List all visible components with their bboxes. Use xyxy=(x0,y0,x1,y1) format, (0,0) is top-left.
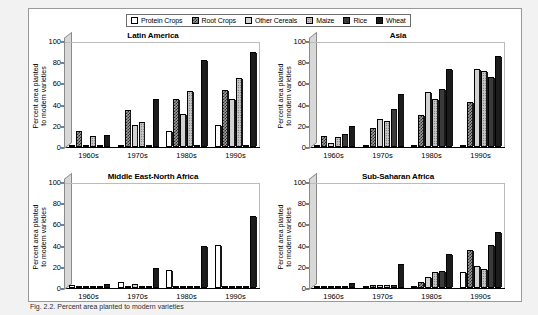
x-tick-label: 1960s xyxy=(309,148,358,160)
swatch-other-cereals-icon xyxy=(245,17,252,24)
bar xyxy=(314,145,320,147)
panel-sub-saharan-africa: Sub-Saharan AfricaPercent area plantedto… xyxy=(278,172,518,302)
plot-area: 0204060801001960s1970s1980s1990s xyxy=(291,42,505,148)
bar xyxy=(377,285,383,288)
bar xyxy=(321,136,327,147)
y-axis-ticks: 020406080100 xyxy=(291,42,309,148)
bar xyxy=(418,115,424,147)
bar xyxy=(411,145,417,147)
y-tick-label: 60 xyxy=(298,80,306,88)
legend-item-label: Other Cereals xyxy=(255,17,297,25)
panel-latin-america: Latin AmericaPercent area plantedto mode… xyxy=(33,31,273,171)
bar xyxy=(146,286,152,288)
bar xyxy=(495,56,501,147)
bar xyxy=(488,77,494,147)
bar xyxy=(488,245,494,288)
y-tick-label: 60 xyxy=(53,80,61,88)
bar-group-1980s xyxy=(163,183,212,288)
y-tick-label: 40 xyxy=(53,243,61,251)
bar xyxy=(104,284,110,288)
panel-middle-east-north-africa: Middle East-North AfricaPercent area pla… xyxy=(33,172,273,302)
bar xyxy=(83,145,89,147)
y-tick-label: 100 xyxy=(48,179,61,187)
legend-item-label: Root Crops xyxy=(202,17,236,25)
bar xyxy=(90,286,96,288)
y-tick-label: 100 xyxy=(293,179,306,187)
x-axis-labels: 1960s1970s1980s1990s xyxy=(309,289,505,301)
x-tick-label: 1970s xyxy=(358,289,407,301)
legend-item-label: Rice xyxy=(353,17,367,25)
bar xyxy=(125,286,131,288)
x-axis-labels: 1960s1970s1980s1990s xyxy=(64,289,260,301)
bar xyxy=(328,286,334,288)
bar xyxy=(425,277,431,288)
bar xyxy=(222,286,228,288)
bar xyxy=(243,286,249,288)
bar xyxy=(222,90,228,147)
bar xyxy=(187,286,193,288)
bar xyxy=(194,286,200,288)
bar xyxy=(132,125,138,147)
x-tick-label: 1960s xyxy=(64,289,113,301)
bar xyxy=(69,285,75,288)
swatch-protein-crops-icon xyxy=(131,17,138,24)
plot-canvas xyxy=(64,183,260,289)
bar xyxy=(215,245,221,288)
bar xyxy=(398,94,404,147)
bar xyxy=(418,282,424,288)
bar xyxy=(90,136,96,147)
bar xyxy=(467,250,473,288)
swatch-rice-icon xyxy=(343,17,350,24)
y-tick-label: 20 xyxy=(53,123,61,131)
bar xyxy=(201,60,207,147)
x-tick-label: 1980s xyxy=(407,148,456,160)
figure-caption: Fig. 2.2. Percent area planted to modern… xyxy=(30,303,184,310)
y-axis-label: Percent area plantedto modern varieties xyxy=(33,184,46,290)
x-tick-label: 1960s xyxy=(64,148,113,160)
plot-canvas xyxy=(309,183,505,289)
bar-group-1960s xyxy=(310,183,359,288)
bar xyxy=(76,131,82,147)
bar xyxy=(139,122,145,147)
bar-group-1970s xyxy=(359,183,408,288)
bar xyxy=(180,286,186,288)
bar xyxy=(432,272,438,288)
legend-item-maize[interactable]: Maize xyxy=(306,17,334,25)
bar xyxy=(460,145,466,147)
bar xyxy=(104,135,110,147)
y-axis-label: Percent area plantedto modern varieties xyxy=(33,43,46,149)
bar xyxy=(180,114,186,147)
bar xyxy=(118,282,124,288)
legend-item-wheat[interactable]: Wheat xyxy=(376,17,406,25)
y-axis-ticks: 020406080100 xyxy=(46,42,64,148)
bar-group-1960s xyxy=(65,42,114,147)
bar xyxy=(153,268,159,288)
legend-item-other-cereals[interactable]: Other Cereals xyxy=(245,17,297,25)
bar xyxy=(460,272,466,288)
x-tick-label: 1970s xyxy=(113,289,162,301)
bar xyxy=(446,69,452,147)
bar xyxy=(495,232,501,288)
bar xyxy=(194,145,200,147)
y-tick-label: 80 xyxy=(53,200,61,208)
bar xyxy=(236,286,242,288)
legend-item-protein-crops[interactable]: Protein Crops xyxy=(131,17,183,25)
figure-root: Protein CropsRoot CropsOther CerealsMaiz… xyxy=(0,0,538,315)
bar xyxy=(467,102,473,147)
x-tick-label: 1990s xyxy=(456,289,505,301)
bar xyxy=(229,286,235,288)
legend-item-rice[interactable]: Rice xyxy=(343,17,367,25)
bar xyxy=(132,284,138,288)
bar xyxy=(398,264,404,288)
x-tick-label: 1980s xyxy=(162,148,211,160)
swatch-maize-icon xyxy=(306,17,313,24)
bar xyxy=(187,91,193,147)
bar xyxy=(342,134,348,147)
bar xyxy=(474,69,480,147)
bar xyxy=(439,89,445,147)
y-axis-label-line1: Percent area planted xyxy=(32,205,40,270)
plot-canvas xyxy=(309,42,505,148)
y-axis-ticks: 020406080100 xyxy=(291,183,309,289)
x-tick-label: 1990s xyxy=(211,148,260,160)
legend-item-root-crops[interactable]: Root Crops xyxy=(192,17,236,25)
